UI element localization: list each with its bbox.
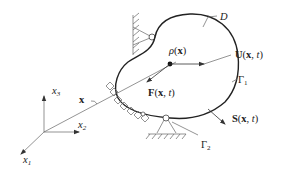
- displacement-label: U(x, t): [235, 49, 264, 61]
- position-vector-leader: [91, 101, 97, 104]
- x1-axis: [21, 132, 44, 154]
- top-wall-support: [133, 13, 155, 55]
- domain-label: D: [219, 11, 228, 22]
- continuum-body-diagram: D ρ(x) U(x, t) F(x, t) S(x, t) Γ1 Γ2 x x…: [0, 0, 283, 170]
- displacement-leader: [204, 55, 231, 64]
- traction-vector: [208, 109, 225, 124]
- position-vector-label: x: [79, 94, 85, 105]
- x3-axis-label: x3: [51, 85, 61, 98]
- boundary-roller: [141, 112, 145, 116]
- traction-label: S(x, t): [232, 113, 259, 125]
- x1-axis-label: x1: [22, 154, 31, 167]
- boundary2-label: Γ2: [201, 139, 211, 152]
- body-outline: [116, 14, 239, 118]
- x2-axis-label: x2: [77, 119, 87, 132]
- body-force-label: F(x, t): [148, 87, 175, 99]
- coordinate-axes: [21, 96, 79, 154]
- body-force-vector: [147, 64, 170, 82]
- boundary1-label: Γ1: [238, 74, 248, 87]
- density-label: ρ(x): [168, 45, 187, 57]
